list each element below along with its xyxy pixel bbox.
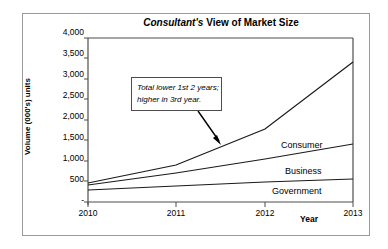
callout-line-2: higher in 3rd year. [137,94,216,106]
x-tick-marks [88,202,353,207]
series-line-business [88,144,353,185]
callout-line-1: Total lower 1st 2 years; [137,82,216,94]
market-size-chart: Consultant's View of Market Size Volume … [0,0,388,249]
series-label-government: Government [272,186,322,196]
callout-arrow-icon [198,111,221,145]
series-label-consumer: Consumer [281,140,323,150]
plot-area [0,0,388,249]
callout-annotation: Total lower 1st 2 years; higher in 3rd y… [131,77,222,111]
series-label-business: Business [285,166,322,176]
